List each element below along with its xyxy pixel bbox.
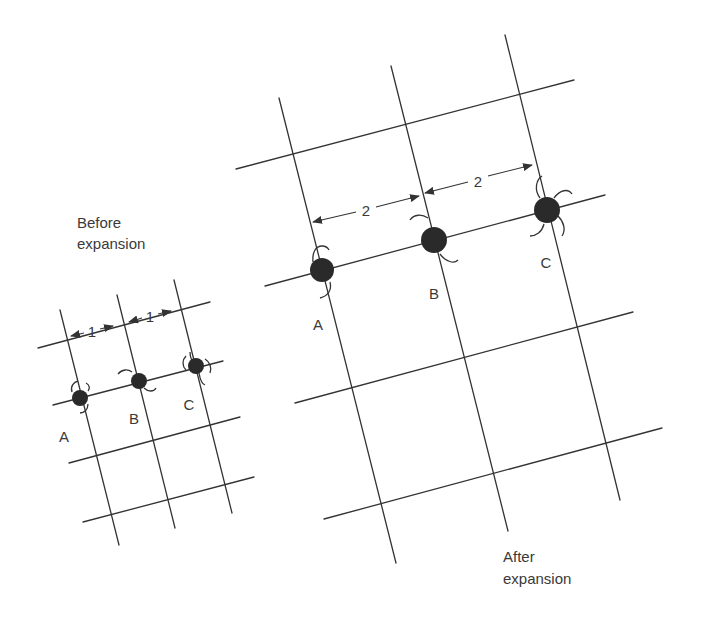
orbit-icon	[118, 370, 132, 374]
atom-icon	[310, 258, 334, 282]
after-column-line-c	[505, 35, 620, 500]
after-lattice: 2 2 A B C After expansion	[236, 35, 662, 587]
before-column-line-b	[117, 295, 175, 528]
after-spacing-label-1: 2	[362, 202, 370, 219]
after-arrow-2-left	[425, 182, 468, 193]
orbit-icon	[86, 383, 89, 391]
after-arrow-1-left	[313, 212, 356, 222]
orbit-icon	[440, 254, 458, 262]
before-lattice: 1 1 A B C Before expansion	[38, 214, 254, 545]
atom-icon	[131, 373, 147, 389]
after-grid-lines	[236, 35, 662, 563]
orbit-icon	[530, 224, 544, 236]
after-caption-line1: After	[503, 548, 535, 565]
orbit-icon	[558, 216, 564, 236]
after-column-line-a	[279, 98, 396, 563]
before-atom-label-b: B	[129, 410, 139, 427]
before-spacing-arrows	[71, 311, 171, 336]
expansion-diagram: 1 1 A B C Before expansion	[0, 0, 701, 622]
after-arrow-1-right	[376, 196, 419, 207]
before-spacing-label-2: 1	[146, 308, 154, 325]
before-caption-line1: Before	[77, 214, 121, 231]
orbit-icon	[554, 191, 572, 198]
orbit-icon	[183, 356, 186, 370]
after-caption-line2: expansion	[503, 570, 571, 587]
after-row-line-1	[236, 80, 574, 169]
atom-icon	[534, 197, 560, 223]
before-spacing-label-1: 1	[88, 323, 96, 340]
orbit-icon	[144, 388, 156, 391]
after-atom-b	[410, 215, 458, 262]
before-atom-label-c: C	[184, 396, 195, 413]
after-column-line-b	[391, 66, 508, 531]
atom-icon	[72, 390, 88, 406]
orbit-icon	[71, 381, 78, 392]
atom-icon	[421, 227, 447, 253]
before-atom-c	[183, 352, 211, 385]
before-atom-a	[71, 381, 89, 413]
before-atom-label-a: A	[59, 428, 69, 445]
after-atom-label-b: B	[429, 285, 439, 302]
after-arrow-2-right	[488, 165, 532, 176]
after-atom-a	[310, 246, 334, 298]
orbit-icon	[410, 215, 428, 220]
atom-icon	[188, 358, 204, 374]
after-spacing-label-2: 2	[474, 173, 482, 190]
after-atom-label-c: C	[541, 254, 552, 271]
after-row-line-4	[324, 428, 662, 519]
after-row-line-3	[295, 312, 633, 403]
after-atom-label-a: A	[313, 316, 323, 333]
before-caption-line2: expansion	[77, 235, 145, 252]
